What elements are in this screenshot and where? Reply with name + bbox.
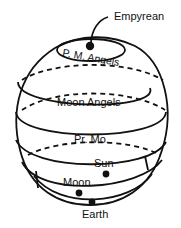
- label-moon-angels: Moon Angels: [57, 96, 121, 108]
- sun-dot: [103, 171, 110, 178]
- label-primum-mobile: Pr. Mo.: [74, 133, 109, 145]
- earth-dot: [89, 199, 96, 206]
- label-moon: Moon: [63, 176, 91, 188]
- left-tick: [36, 171, 38, 188]
- cosmology-sphere-diagram: Empyrean P. M. Angels Moon Angels Pr. Mo…: [0, 0, 181, 228]
- label-empyrean: Empyrean: [114, 10, 164, 22]
- right-tick: [145, 156, 148, 170]
- empyrean-dot: [86, 42, 94, 50]
- label-sun: Sun: [94, 157, 114, 169]
- empyrean-pointer: [86, 17, 108, 50]
- label-earth: Earth: [82, 208, 108, 220]
- upper-back-ring: [22, 65, 163, 80]
- moon-dot: [76, 190, 83, 197]
